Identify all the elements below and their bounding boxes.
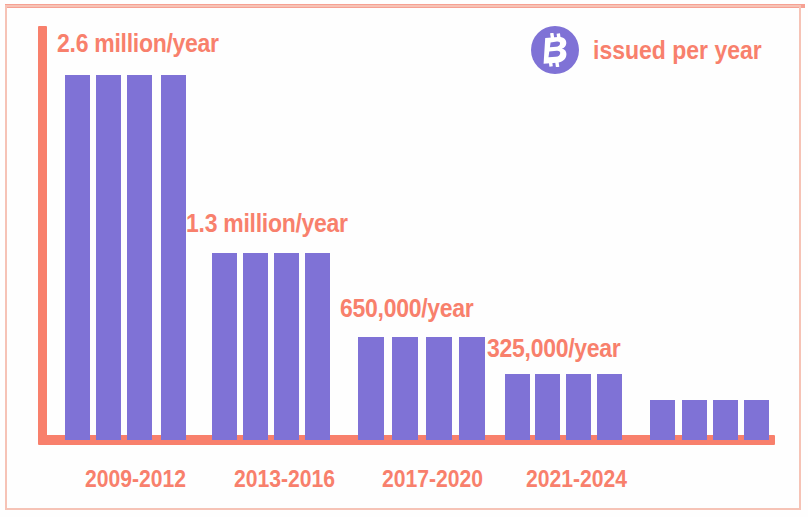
bar [459,337,485,440]
bar [713,400,738,440]
bar [161,75,186,440]
bar [96,75,121,440]
bar [243,253,268,440]
x-axis-label: 2017-2020 [366,466,499,493]
value-label: 2.6 million/year [57,29,219,58]
legend-label: issued per year [593,36,762,65]
value-label: 325,000/year [487,334,621,363]
bar [597,374,622,440]
x-axis-label: 2009-2012 [69,466,202,493]
x-axis-label: 2021-2024 [510,466,643,493]
bar [274,253,299,440]
x-axis-label: 2013-2016 [218,466,351,493]
bar [358,337,384,440]
bar [744,400,769,440]
bar [682,400,707,440]
bar [305,253,330,440]
chart-legend: issued per year [531,26,776,74]
bar [505,374,530,440]
value-label: 650,000/year [340,294,474,323]
value-label: 1.3 million/year [186,209,348,238]
bar [212,253,237,440]
bar [650,400,675,440]
chart-canvas: 2.6 million/year1.3 million/year650,000/… [0,0,808,517]
bar [65,75,90,440]
bitcoin-icon [531,26,579,74]
bar [127,75,152,440]
bar [426,337,452,440]
bar [392,337,418,440]
bar [535,374,560,440]
bar [566,374,591,440]
